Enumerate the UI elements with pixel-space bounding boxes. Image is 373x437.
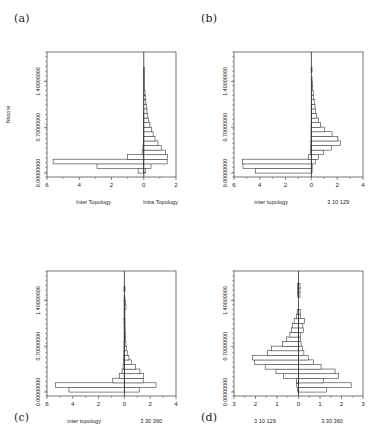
x-tick-label: 6 [45,181,49,188]
pyramid-chart-a: 642020.000000000.700000001.40000000Inter… [0,0,186,218]
bar-left [267,351,298,356]
bar-right [124,387,139,392]
x-axis-caption-left: inter topology [254,199,288,205]
x-tick-label: 4 [258,181,262,188]
bar-right [124,378,143,383]
x-tick-label: 2 [284,181,288,188]
bar-series [242,68,340,174]
y-tick-label: 1.40000000 [222,286,228,314]
x-tick-label: 2 [174,181,178,188]
plot-frame [47,271,176,396]
x-tick-label: 0 [297,400,301,407]
chart-panel-b: 6420240.000000000.700000001.40000000inte… [187,0,373,218]
bar-right [124,374,143,379]
bar-right [299,383,352,388]
bar-right [144,113,148,118]
y-tick-label: 0.00000000 [35,159,41,187]
y-tick-label: 0.00000000 [35,378,41,406]
x-tick-label: 3 [232,400,236,407]
y-axis-title: Nscore [5,106,11,124]
x-tick-label: 2 [97,400,101,407]
plot-frame [234,52,363,177]
bar-left [69,387,124,392]
bar-right [299,364,322,369]
x-axis-caption-right: Intra Topology [143,199,178,205]
x-tick-label: 4 [361,181,365,188]
bar-left [292,323,298,328]
bar-left [119,374,124,379]
bar-right [311,123,320,128]
bar-right [311,100,314,105]
x-tick-label: 4 [78,181,82,188]
bar-left [254,360,298,365]
bar-left [55,383,124,388]
bar-right [299,319,305,324]
x-tick-label: 2 [254,400,258,407]
bar-series [55,287,156,393]
y-tick-label: 1.40000000 [35,286,41,314]
bar-right [311,113,316,118]
x-axis-caption-left: Inter Topology [76,199,111,205]
x-tick-label: 0 [310,181,314,188]
x-tick-label: 4 [71,400,75,407]
x-tick-label: 2 [110,181,114,188]
bar-left [255,168,311,173]
y-tick-label: 0.70000000 [35,332,41,360]
x-tick-label: 0 [123,400,127,407]
x-tick-label: 3 [361,400,365,407]
bar-right [144,145,161,150]
bar-right [311,155,318,160]
y-tick-label: 0.70000000 [222,113,228,141]
bar-left [292,328,299,333]
bar-left [282,342,298,347]
bar-right [144,155,168,160]
x-tick-label: 4 [174,400,178,407]
y-tick-label: 0.70000000 [35,113,41,141]
bar-right [299,355,309,360]
bar-left [309,155,312,160]
bar-left [276,369,299,374]
bar-right [124,355,129,360]
chart-panel-c: 6420240.000000000.700000001.40000000inte… [0,219,186,437]
bar-left [265,364,298,369]
bar-right [299,323,303,328]
bar-left [243,164,311,169]
bar-left [113,378,125,383]
bar-left [138,168,144,173]
bar-left [294,319,298,324]
bar-right [124,369,139,374]
x-tick-label: 2 [340,400,344,407]
bar-left [272,346,299,351]
bar-right [311,127,324,132]
bar-right [299,328,304,333]
bar-left [283,374,298,379]
bar-right [299,378,324,383]
bar-series [252,283,351,392]
pyramid-chart-c: 6420240.000000000.700000001.40000000inte… [0,219,186,437]
y-tick-label: 1.40000000 [35,67,41,95]
pyramid-chart-d: 32101230.000000000.700000001.400000003 1… [187,219,373,437]
y-axis: 0.000000000.700000001.40000000 [222,271,234,406]
x-axis: 3210123 [232,396,365,407]
bar-right [144,141,158,146]
bar-right [299,387,327,392]
x-tick-label: 2 [148,400,152,407]
bar-left [252,355,298,360]
x-tick-label: 2 [335,181,339,188]
x-tick-label: 0 [142,181,146,188]
bar-right [311,132,332,137]
bar-right [144,164,151,169]
x-axis-caption-right: 3 30 360 [321,418,343,424]
bar-right [311,159,315,164]
x-tick-label: 6 [45,400,49,407]
x-tick-label: 6 [232,181,236,188]
bar-right [311,118,318,123]
x-axis-caption-right: 3 10 129 [327,199,349,205]
x-tick-label: 1 [275,400,279,407]
bar-right [311,104,315,109]
bar-right [311,136,337,141]
y-axis: 0.000000000.700000001.40000000 [35,271,47,406]
chart-panel-a: 642020.000000000.700000001.40000000Inter… [0,0,186,218]
bar-right [299,360,314,365]
bar-right [311,150,323,155]
